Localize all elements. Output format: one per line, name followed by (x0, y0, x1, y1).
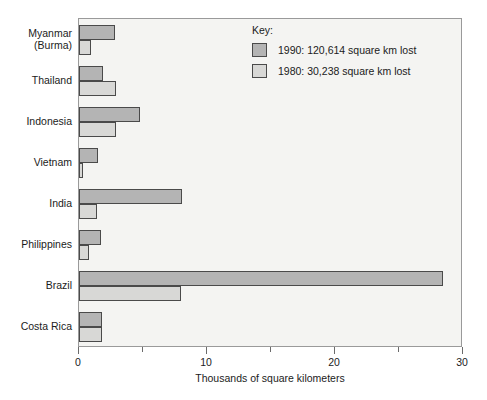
x-tick-major (78, 347, 79, 354)
bar-row (79, 327, 463, 342)
legend-entry-1980: 1980: 30,238 square km lost (252, 64, 416, 78)
bar-1980-myanmar (79, 40, 91, 55)
bar-1980-vietnam (79, 163, 83, 178)
bar-1980-philippines (79, 245, 89, 260)
x-tick-minor (270, 347, 271, 352)
bar-row (79, 245, 463, 260)
category-label: Indonesia (0, 115, 72, 127)
legend-entry-1990: 1990: 120,614 square km lost (252, 43, 416, 57)
bar-1980-thailand (79, 81, 116, 96)
category-label-line: Myanmar (0, 27, 72, 39)
category-label-line: Vietnam (0, 156, 72, 168)
category-label: Brazil (0, 279, 72, 291)
category-label-line: India (0, 197, 72, 209)
bar-row (79, 122, 463, 137)
x-tick-label: 20 (328, 356, 340, 368)
legend-swatch-1990 (252, 43, 267, 57)
category-label: Philippines (0, 238, 72, 250)
x-tick-major (462, 347, 463, 354)
x-tick-minor (142, 347, 143, 352)
x-tick-major (206, 347, 207, 354)
bar-1990-philippines (79, 230, 101, 245)
category-label-line: Philippines (0, 238, 72, 250)
category-label: Vietnam (0, 156, 72, 168)
x-tick-label: 0 (75, 356, 81, 368)
bar-row (79, 189, 463, 204)
x-tick-label: 10 (200, 356, 212, 368)
category-label-line: Thailand (0, 74, 72, 86)
bar-row (79, 148, 463, 163)
x-tick-minor (398, 347, 399, 352)
category-label-line: Costa Rica (0, 320, 72, 332)
bar-1990-brazil (79, 271, 443, 286)
category-label: India (0, 197, 72, 209)
category-axis-labels: Myanmar(Burma)ThailandIndonesiaVietnamIn… (0, 18, 72, 347)
bar-1990-indonesia (79, 107, 140, 122)
x-axis-title: Thousands of square kilometers (78, 372, 462, 384)
legend-title: Key: (252, 24, 416, 36)
bar-1980-brazil (79, 286, 181, 301)
bar-1990-vietnam (79, 148, 98, 163)
bar-1980-costarica (79, 327, 102, 342)
deforestation-bar-chart: Myanmar(Burma)ThailandIndonesiaVietnamIn… (0, 0, 487, 400)
x-tick-major (334, 347, 335, 354)
x-tick-label: 30 (456, 356, 468, 368)
bar-1990-thailand (79, 66, 103, 81)
category-label-line: Indonesia (0, 115, 72, 127)
bar-row (79, 163, 463, 178)
legend-swatch-1980 (252, 64, 267, 78)
legend-label-1990: 1990: 120,614 square km lost (278, 44, 416, 56)
category-label: Thailand (0, 74, 72, 86)
category-label-line: (Burma) (0, 39, 72, 51)
bar-1990-costarica (79, 312, 102, 327)
chart-legend: Key: 1990: 120,614 square km lost 1980: … (252, 24, 416, 85)
bar-row (79, 286, 463, 301)
bar-row (79, 271, 463, 286)
category-label: Costa Rica (0, 320, 72, 332)
bar-row (79, 204, 463, 219)
legend-label-1980: 1980: 30,238 square km lost (278, 65, 411, 77)
bar-1980-indonesia (79, 122, 116, 137)
bar-row (79, 230, 463, 245)
category-label: Myanmar(Burma) (0, 27, 72, 51)
bar-row (79, 107, 463, 122)
bar-1990-india (79, 189, 182, 204)
category-label-line: Brazil (0, 279, 72, 291)
bar-1990-myanmar (79, 25, 115, 40)
bar-row (79, 312, 463, 327)
bar-1980-india (79, 204, 97, 219)
